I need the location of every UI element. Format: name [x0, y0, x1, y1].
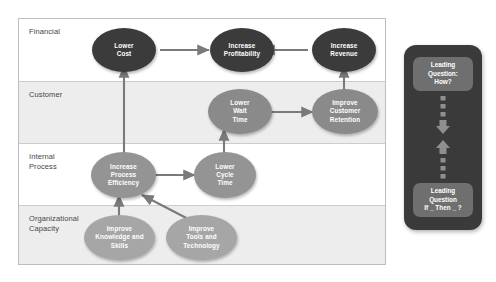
strategy-map-frame: Financial Customer Internal Process Orga… [18, 18, 386, 265]
dotted-arrow-down-icon [435, 95, 451, 135]
node-label: Improve Tools and Technology [183, 225, 219, 250]
node-improve-knowledge-and-skills[interactable]: Improve Knowledge and Skills [84, 215, 155, 260]
dotted-arrow-up-icon [435, 139, 451, 179]
leading-questions-panel: Leading Question: How? Leading Question … [404, 45, 482, 230]
node-improve-customer-retention[interactable]: Improve Customer Retention [312, 89, 378, 134]
node-lower-wait-time[interactable]: Lower Wait Time [208, 89, 272, 134]
node-label: Improve Knowledge and Skills [95, 225, 144, 250]
node-lower-cycle-time[interactable]: Lower Cycle Time [194, 152, 256, 198]
node-increase-process-efficiency[interactable]: Increase Process Efficiency [91, 152, 156, 198]
node-label: Lower Wait Time [230, 99, 249, 124]
callout-leading-question-how[interactable]: Leading Question: How? [413, 57, 473, 91]
callout-label: Leading Question If _ Then _ ? [424, 187, 461, 213]
node-increase-profitability[interactable]: Increase Profitability [210, 28, 274, 72]
node-lower-cost[interactable]: Lower Cost [92, 28, 156, 72]
node-label: Increase Profitability [224, 42, 260, 58]
node-label: Increase Process Efficiency [108, 163, 139, 188]
strategy-map-canvas: Financial Customer Internal Process Orga… [0, 0, 496, 282]
callout-leading-question-if-then[interactable]: Leading Question If _ Then _ ? [413, 183, 473, 217]
node-label: Increase Revenue [330, 42, 357, 58]
node-improve-tools-and-technology[interactable]: Improve Tools and Technology [166, 215, 237, 260]
node-label: Improve Customer Retention [330, 99, 361, 124]
node-label: Lower Cost [114, 42, 133, 58]
node-increase-revenue[interactable]: Increase Revenue [312, 28, 376, 72]
callout-label: Leading Question: How? [428, 61, 458, 87]
node-label: Lower Cycle Time [215, 163, 234, 188]
